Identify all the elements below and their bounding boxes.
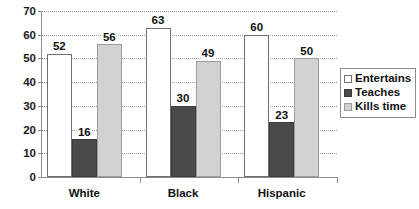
bar-killstime: 50 <box>294 58 319 177</box>
legend-item-label: Entertains <box>355 73 411 85</box>
x-axis-tick <box>337 178 338 183</box>
bar-entertains: 60 <box>244 35 269 177</box>
y-axis-tick-label: 0 <box>30 172 36 184</box>
bar-entertains: 52 <box>47 54 72 177</box>
legend-item: Teaches <box>344 86 411 100</box>
y-axis-tick-label: 40 <box>23 77 36 89</box>
bar-group: 633049 <box>146 11 221 177</box>
bar-value-label: 56 <box>102 32 117 44</box>
legend-item-label: Kills time <box>355 101 406 113</box>
bar-value-label: 23 <box>274 110 289 122</box>
bar-value-label: 50 <box>299 46 314 58</box>
plot-area: 521656633049602350 <box>41 11 337 177</box>
x-axis-category-label: Black <box>168 188 199 200</box>
y-axis-tick-label: 70 <box>23 6 36 18</box>
bar-chart: 010203040506070 521656633049602350 White… <box>0 0 419 209</box>
bar-value-label: 49 <box>201 48 216 60</box>
bar-killstime: 56 <box>97 44 122 177</box>
y-axis-tick-label: 60 <box>23 30 36 42</box>
y-axis-tick-label: 20 <box>23 125 36 137</box>
bar-killstime: 49 <box>196 61 221 177</box>
x-axis-tick <box>238 178 239 183</box>
legend-swatch-entertains <box>344 75 352 83</box>
bar-value-label: 16 <box>77 127 92 139</box>
legend-item: Entertains <box>344 72 411 86</box>
legend-item: Kills time <box>344 100 411 114</box>
y-axis-tick-label: 50 <box>23 53 36 65</box>
bar-teaches: 30 <box>171 106 196 177</box>
bar-value-label: 60 <box>249 22 264 34</box>
bar-value-label: 52 <box>52 41 67 53</box>
chart-legend: EntertainsTeachesKills time <box>340 68 416 118</box>
bar-group: 521656 <box>47 11 122 177</box>
x-axis-category-label: White <box>69 188 100 200</box>
bar-teaches: 23 <box>269 122 294 177</box>
y-axis-tick-label: 30 <box>23 101 36 113</box>
x-axis <box>41 177 338 178</box>
bar-entertains: 63 <box>146 28 171 177</box>
x-axis-category-label: Hispanic <box>258 188 306 200</box>
bar-value-label: 30 <box>176 93 191 105</box>
legend-swatch-teaches <box>344 89 352 97</box>
bar-value-label: 63 <box>151 15 166 27</box>
bar-teaches: 16 <box>72 139 97 177</box>
legend-item-label: Teaches <box>355 87 400 99</box>
y-axis-tick-label: 10 <box>23 148 36 160</box>
bar-group: 602350 <box>244 11 319 177</box>
y-axis-labels: 010203040506070 <box>0 0 36 209</box>
legend-swatch-killstime <box>344 103 352 111</box>
x-axis-tick <box>140 178 141 183</box>
